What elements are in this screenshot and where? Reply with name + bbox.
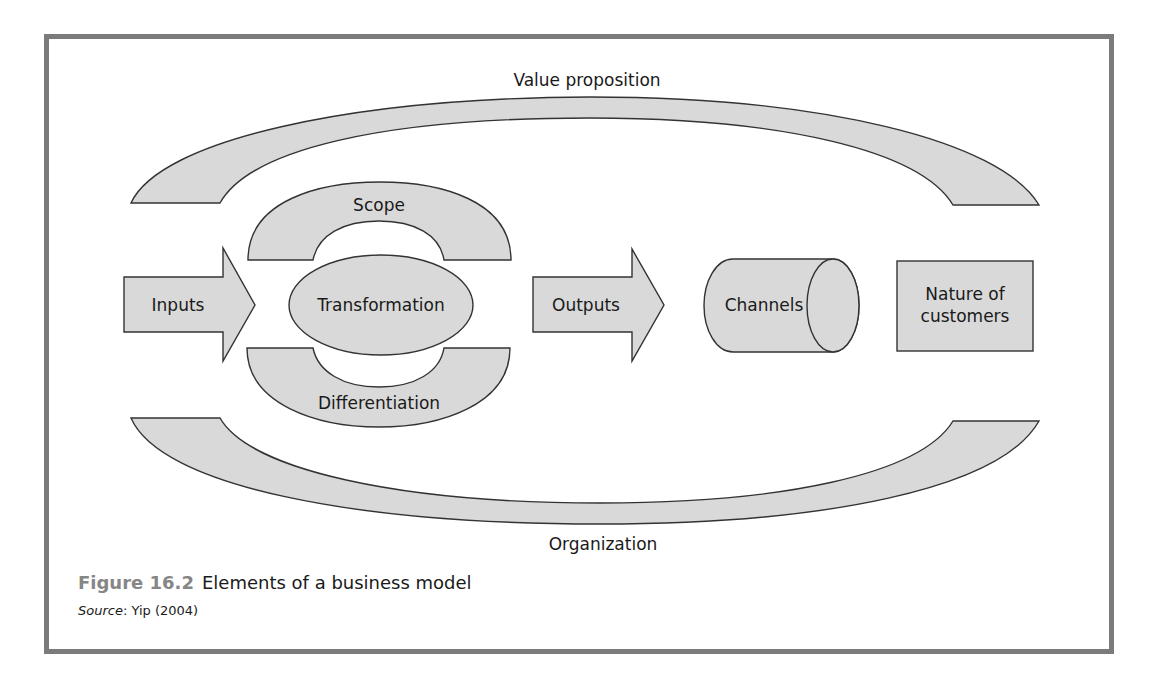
differentiation-arc bbox=[247, 348, 510, 427]
value-proposition-arc bbox=[131, 97, 1039, 205]
channels-cylinder-end bbox=[807, 259, 859, 352]
organization-label: Organization bbox=[549, 534, 658, 554]
channels-label: Channels bbox=[725, 295, 804, 315]
customers-label-line2: customers bbox=[921, 306, 1010, 326]
inputs-label: Inputs bbox=[152, 295, 205, 315]
figure-title: Elements of a business model bbox=[202, 572, 472, 593]
transformation-label: Transformation bbox=[316, 295, 445, 315]
figure-number: Figure 16.2 bbox=[78, 572, 194, 593]
figure-source: Source: Yip (2004) bbox=[78, 603, 198, 618]
organization-arc bbox=[131, 418, 1039, 524]
customers-label-line1: Nature of bbox=[925, 284, 1005, 304]
scope-label: Scope bbox=[353, 195, 405, 215]
figure-caption: Figure 16.2Elements of a business model bbox=[78, 572, 472, 593]
source-text: Yip (2004) bbox=[131, 603, 198, 618]
scope-arc bbox=[248, 182, 511, 260]
source-label: Source bbox=[78, 603, 123, 618]
outputs-label: Outputs bbox=[552, 295, 620, 315]
differentiation-label: Differentiation bbox=[318, 393, 440, 413]
value-proposition-label: Value proposition bbox=[513, 70, 660, 90]
